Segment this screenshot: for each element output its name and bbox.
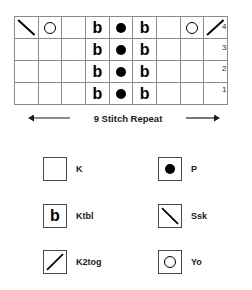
stitch-chart: bbbbbbbb bbox=[14, 16, 218, 100]
chart-cell[interactable] bbox=[180, 61, 204, 83]
symbol-blank bbox=[15, 61, 38, 82]
symbol-purl bbox=[110, 83, 133, 104]
chart-cell[interactable] bbox=[62, 39, 86, 61]
chart-cell[interactable] bbox=[156, 61, 180, 83]
legend-item: bKtbl bbox=[43, 204, 94, 228]
chart-cell[interactable] bbox=[15, 17, 39, 39]
chart-cell[interactable] bbox=[38, 39, 62, 61]
chart-cell[interactable]: b bbox=[133, 61, 157, 83]
legend-symbol-box: b bbox=[43, 204, 67, 228]
symbol-yarnover bbox=[181, 17, 204, 38]
symbol-blank bbox=[157, 83, 180, 104]
symbol-purl bbox=[110, 17, 133, 38]
legend-symbol-box bbox=[158, 204, 182, 228]
chart-cell[interactable] bbox=[156, 39, 180, 61]
symbol-ktbl: b bbox=[86, 61, 109, 82]
chart-cell[interactable] bbox=[62, 17, 86, 39]
chart-cell[interactable] bbox=[62, 83, 86, 105]
symbol-blank bbox=[157, 61, 180, 82]
legend-symbol-box bbox=[158, 250, 182, 274]
symbol-ktbl: b bbox=[133, 17, 156, 38]
row-number: 2 bbox=[222, 64, 236, 73]
chart-cell[interactable] bbox=[15, 39, 39, 61]
legend-symbol-box bbox=[158, 157, 182, 181]
symbol-blank bbox=[157, 39, 180, 60]
chart-grid: bbbbbbbb bbox=[14, 16, 228, 105]
chart-cell[interactable] bbox=[38, 61, 62, 83]
chart-cell[interactable]: b bbox=[85, 61, 109, 83]
legend-label: K2tog bbox=[76, 257, 102, 267]
symbol-yarnover bbox=[39, 17, 62, 38]
chart-cell[interactable]: b bbox=[133, 39, 157, 61]
symbol-ktbl: b bbox=[133, 61, 156, 82]
symbol-blank bbox=[62, 61, 85, 82]
symbol-ktbl: b bbox=[44, 205, 66, 227]
row-number: 3 bbox=[222, 43, 236, 52]
chart-row: bb bbox=[15, 17, 228, 39]
chart-cell[interactable] bbox=[62, 61, 86, 83]
chart-cell[interactable] bbox=[180, 83, 204, 105]
symbol-blank bbox=[62, 39, 85, 60]
chart-grid-body: bbbbbbbb bbox=[15, 17, 228, 105]
chart-cell[interactable]: b bbox=[85, 83, 109, 105]
chart-cell[interactable] bbox=[180, 39, 204, 61]
legend-item: Ssk bbox=[158, 204, 207, 228]
legend-item: Yo bbox=[158, 250, 202, 274]
symbol-blank bbox=[39, 83, 62, 104]
symbol-ktbl: b bbox=[86, 17, 109, 38]
chart-row: bb bbox=[15, 39, 228, 61]
chart-row: bb bbox=[15, 61, 228, 83]
row-number: 4 bbox=[222, 22, 236, 31]
symbol-ktbl: b bbox=[86, 83, 109, 104]
chart-cell[interactable]: b bbox=[85, 17, 109, 39]
symbol-ssk bbox=[159, 205, 181, 227]
chart-cell[interactable]: b bbox=[133, 83, 157, 105]
chart-cell[interactable] bbox=[15, 83, 39, 105]
symbol-ktbl: b bbox=[133, 83, 156, 104]
symbol-ktbl: b bbox=[133, 39, 156, 60]
chart-cell[interactable] bbox=[156, 17, 180, 39]
symbol-k2tog bbox=[44, 251, 66, 273]
legend-symbol-box bbox=[43, 157, 67, 181]
symbol-blank bbox=[15, 83, 38, 104]
repeat-label: 9 Stitch Repeat bbox=[76, 113, 180, 124]
row-number: 1 bbox=[222, 85, 236, 94]
legend-label: K bbox=[76, 164, 83, 174]
symbol-blank bbox=[15, 39, 38, 60]
chart-cell[interactable] bbox=[15, 61, 39, 83]
chart-cell[interactable] bbox=[156, 83, 180, 105]
symbol-purl bbox=[159, 158, 181, 180]
symbol-purl bbox=[110, 61, 133, 82]
chart-cell[interactable] bbox=[109, 17, 133, 39]
symbol-yarnover bbox=[159, 251, 181, 273]
chart-row: bb bbox=[15, 83, 228, 105]
symbol-blank bbox=[62, 83, 85, 104]
legend-symbol-box bbox=[43, 250, 67, 274]
chart-cell[interactable] bbox=[38, 83, 62, 105]
legend-item: P bbox=[158, 157, 197, 181]
symbol-blank bbox=[181, 83, 204, 104]
chart-cell[interactable] bbox=[38, 17, 62, 39]
legend-label: Ktbl bbox=[76, 211, 94, 221]
symbol-blank bbox=[181, 61, 204, 82]
symbol-blank bbox=[44, 158, 66, 180]
chart-cell[interactable] bbox=[109, 83, 133, 105]
legend-label: Yo bbox=[191, 257, 202, 267]
symbol-ktbl: b bbox=[86, 39, 109, 60]
chart-cell[interactable] bbox=[180, 17, 204, 39]
legend-item: K bbox=[43, 157, 83, 181]
legend-label: Ssk bbox=[191, 211, 207, 221]
chart-cell[interactable]: b bbox=[133, 17, 157, 39]
chart-cell[interactable]: b bbox=[85, 39, 109, 61]
symbol-blank bbox=[39, 61, 62, 82]
symbol-blank bbox=[39, 39, 62, 60]
symbol-blank bbox=[62, 17, 85, 38]
symbol-blank bbox=[181, 39, 204, 60]
chart-cell[interactable] bbox=[109, 61, 133, 83]
legend-label: P bbox=[191, 164, 197, 174]
legend-item: K2tog bbox=[43, 250, 102, 274]
symbol-blank bbox=[157, 17, 180, 38]
chart-cell[interactable] bbox=[109, 39, 133, 61]
symbol-ssk bbox=[15, 17, 38, 38]
symbol-purl bbox=[110, 39, 133, 60]
